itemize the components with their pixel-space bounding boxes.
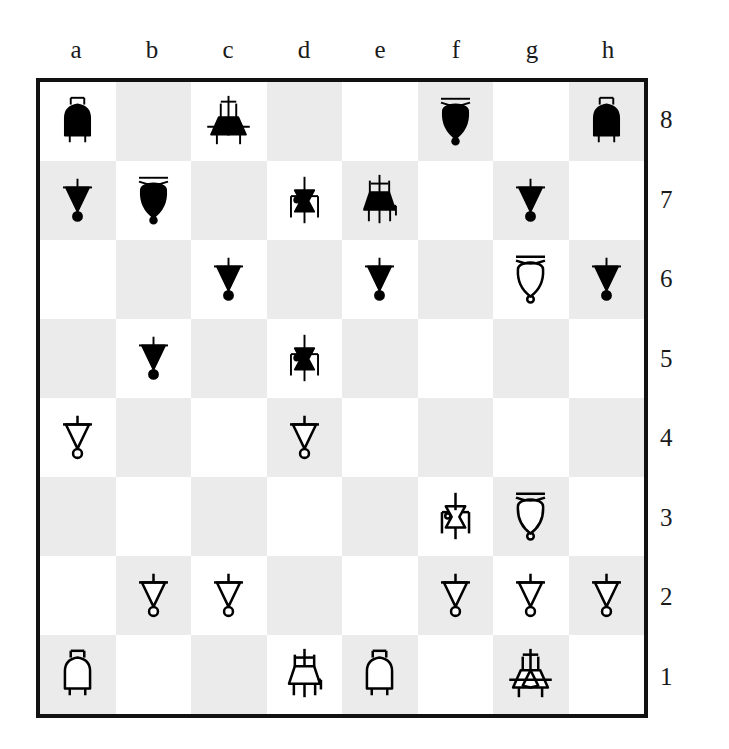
square-g8[interactable]: [493, 82, 569, 161]
square-h2[interactable]: [569, 556, 645, 635]
square-f8[interactable]: [418, 82, 494, 161]
square-f3[interactable]: [418, 477, 494, 556]
square-f2[interactable]: [418, 556, 494, 635]
white-bishop-icon[interactable]: [493, 477, 569, 556]
square-a7[interactable]: [40, 161, 116, 240]
square-c7[interactable]: [191, 161, 267, 240]
white-pawn-icon[interactable]: [191, 556, 267, 635]
square-c4[interactable]: [191, 398, 267, 477]
square-h1[interactable]: [569, 635, 645, 714]
square-e1[interactable]: [342, 635, 418, 714]
black-knight-icon[interactable]: [267, 319, 343, 398]
square-h5[interactable]: [569, 319, 645, 398]
square-f1[interactable]: [418, 635, 494, 714]
square-d8[interactable]: [267, 82, 343, 161]
square-e5[interactable]: [342, 319, 418, 398]
black-pawn-icon[interactable]: [40, 161, 116, 240]
file-label-d: d: [266, 32, 342, 66]
square-e7[interactable]: [342, 161, 418, 240]
square-b7[interactable]: [116, 161, 192, 240]
black-king-icon[interactable]: [191, 82, 267, 161]
square-d3[interactable]: [267, 477, 343, 556]
black-bishop-icon[interactable]: [116, 161, 192, 240]
square-b4[interactable]: [116, 398, 192, 477]
square-h3[interactable]: [569, 477, 645, 556]
white-rook-icon[interactable]: [342, 635, 418, 714]
square-c5[interactable]: [191, 319, 267, 398]
white-bishop-icon[interactable]: [493, 240, 569, 319]
square-b3[interactable]: [116, 477, 192, 556]
square-b1[interactable]: [116, 635, 192, 714]
file-label-a: a: [38, 32, 114, 66]
black-rook-icon[interactable]: [569, 82, 645, 161]
square-e6[interactable]: [342, 240, 418, 319]
square-e4[interactable]: [342, 398, 418, 477]
square-c8[interactable]: [191, 82, 267, 161]
square-g2[interactable]: [493, 556, 569, 635]
white-pawn-icon[interactable]: [116, 556, 192, 635]
square-h4[interactable]: [569, 398, 645, 477]
square-h6[interactable]: [569, 240, 645, 319]
square-d7[interactable]: [267, 161, 343, 240]
square-a5[interactable]: [40, 319, 116, 398]
white-knight-icon[interactable]: [418, 477, 494, 556]
square-d1[interactable]: [267, 635, 343, 714]
rank-label-3: 3: [660, 478, 700, 558]
square-d6[interactable]: [267, 240, 343, 319]
square-f6[interactable]: [418, 240, 494, 319]
square-e8[interactable]: [342, 82, 418, 161]
square-g5[interactable]: [493, 319, 569, 398]
rank-labels: 87654321: [660, 80, 700, 716]
square-c2[interactable]: [191, 556, 267, 635]
square-f5[interactable]: [418, 319, 494, 398]
square-h7[interactable]: [569, 161, 645, 240]
square-d2[interactable]: [267, 556, 343, 635]
white-queen-icon[interactable]: [267, 635, 343, 714]
square-b6[interactable]: [116, 240, 192, 319]
square-a4[interactable]: [40, 398, 116, 477]
square-b8[interactable]: [116, 82, 192, 161]
white-king-icon[interactable]: [493, 635, 569, 714]
black-knight-icon[interactable]: [267, 161, 343, 240]
square-a8[interactable]: [40, 82, 116, 161]
white-pawn-icon[interactable]: [569, 556, 645, 635]
square-f4[interactable]: [418, 398, 494, 477]
square-g4[interactable]: [493, 398, 569, 477]
black-pawn-icon[interactable]: [569, 240, 645, 319]
white-pawn-icon[interactable]: [267, 398, 343, 477]
rank-label-8: 8: [660, 80, 700, 160]
square-f7[interactable]: [418, 161, 494, 240]
square-a3[interactable]: [40, 477, 116, 556]
file-labels: abcdefgh: [38, 32, 646, 66]
square-a2[interactable]: [40, 556, 116, 635]
square-e3[interactable]: [342, 477, 418, 556]
black-pawn-icon[interactable]: [342, 240, 418, 319]
square-g7[interactable]: [493, 161, 569, 240]
square-e2[interactable]: [342, 556, 418, 635]
square-c3[interactable]: [191, 477, 267, 556]
square-d5[interactable]: [267, 319, 343, 398]
square-a6[interactable]: [40, 240, 116, 319]
black-pawn-icon[interactable]: [191, 240, 267, 319]
black-bishop-icon[interactable]: [418, 82, 494, 161]
white-pawn-icon[interactable]: [493, 556, 569, 635]
square-g1[interactable]: [493, 635, 569, 714]
square-c1[interactable]: [191, 635, 267, 714]
white-pawn-icon[interactable]: [418, 556, 494, 635]
square-g3[interactable]: [493, 477, 569, 556]
square-g6[interactable]: [493, 240, 569, 319]
white-pawn-icon[interactable]: [40, 398, 116, 477]
black-queen-icon[interactable]: [342, 161, 418, 240]
rank-label-5: 5: [660, 319, 700, 399]
square-h8[interactable]: [569, 82, 645, 161]
white-rook-icon[interactable]: [40, 635, 116, 714]
square-b5[interactable]: [116, 319, 192, 398]
square-c6[interactable]: [191, 240, 267, 319]
square-a1[interactable]: [40, 635, 116, 714]
chess-board[interactable]: [40, 82, 644, 714]
square-d4[interactable]: [267, 398, 343, 477]
black-pawn-icon[interactable]: [493, 161, 569, 240]
square-b2[interactable]: [116, 556, 192, 635]
black-pawn-icon[interactable]: [116, 319, 192, 398]
black-rook-icon[interactable]: [40, 82, 116, 161]
